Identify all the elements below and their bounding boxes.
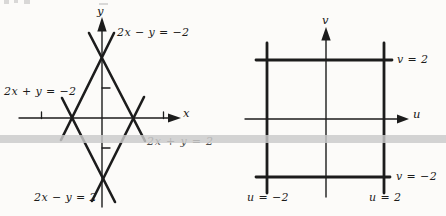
scanned-figure-page: 2x − y = −2 2x + y = −2 2x + y = 2 2x − … <box>0 0 446 216</box>
equation-label-2x-minus-y-eq-neg2: 2x − y = −2 <box>117 27 189 39</box>
equation-label-2x-plus-y-eq-2: 2x + y = 2 <box>147 136 214 148</box>
equation-label-u-eq-2: u = 2 <box>369 192 401 204</box>
right-plot <box>245 27 409 197</box>
y-axis-arrow-icon <box>97 17 106 32</box>
x-axis-label: x <box>183 107 190 119</box>
figure-canvas <box>0 0 446 216</box>
u-axis-arrow-icon <box>397 114 409 123</box>
equation-label-v-eq-neg2: v = −2 <box>396 171 437 183</box>
u-axis-label: u <box>413 108 420 120</box>
left-plot <box>19 17 181 207</box>
equation-label-u-eq-neg2: u = −2 <box>247 192 289 204</box>
v-axis-arrow-icon <box>321 27 330 41</box>
line-2x-plus-y-eq-2 <box>89 33 145 141</box>
equation-label-2x-minus-y-eq-2: 2x − y = 2 <box>34 192 97 204</box>
line-2x-minus-y-eq-2 <box>92 97 144 201</box>
v-axis-label: v <box>322 14 329 26</box>
equation-label-v-eq-2: v = 2 <box>397 54 428 66</box>
y-axis-label: y <box>97 5 104 17</box>
equation-label-2x-plus-y-eq-neg2: 2x + y = −2 <box>4 86 76 98</box>
line-2x-plus-y-eq-neg2 <box>62 98 115 202</box>
x-axis-arrow-icon <box>168 113 181 122</box>
